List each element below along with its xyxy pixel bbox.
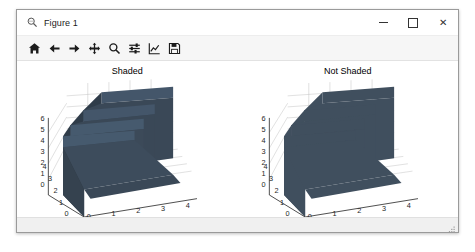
svg-text:0: 0 [41, 180, 45, 189]
svg-text:6: 6 [261, 114, 265, 123]
window-titlebar[interactable]: Figure 1 ✕ [17, 10, 458, 36]
save-floppy-icon [168, 42, 181, 55]
edit-curves-icon [148, 42, 161, 55]
home-icon [28, 42, 41, 55]
maximize-icon [408, 18, 418, 28]
svg-text:1: 1 [332, 209, 336, 217]
svg-text:4: 4 [263, 162, 267, 171]
z-tick-labels-not-shaded: 6 5 4 3 2 1 0 [261, 114, 265, 189]
svg-text:2: 2 [274, 186, 278, 195]
navigation-toolbar [17, 36, 458, 61]
figure-magnifier-icon [20, 17, 44, 28]
maximize-button[interactable] [398, 10, 428, 35]
svg-text:1: 1 [279, 198, 283, 207]
svg-text:3: 3 [41, 147, 45, 156]
x-tick-labels-shaded: 0 1 2 3 4 [87, 201, 190, 217]
configure-subplots-icon [128, 42, 141, 55]
window-controls: ✕ [368, 10, 458, 35]
save-button[interactable] [165, 39, 184, 58]
svg-text:1: 1 [59, 198, 63, 207]
zoom-magnifier-icon [108, 42, 121, 55]
svg-text:0: 0 [261, 180, 265, 189]
svg-text:3: 3 [381, 204, 385, 213]
svg-text:4: 4 [41, 136, 45, 145]
svg-text:2: 2 [357, 206, 361, 215]
minimize-icon [379, 22, 388, 23]
minimize-button[interactable] [368, 10, 398, 35]
figure-window: Figure 1 ✕ [16, 9, 459, 233]
svg-text:0: 0 [285, 209, 289, 217]
svg-text:5: 5 [41, 125, 45, 134]
forward-arrow-icon [68, 42, 81, 55]
desktop-background: Figure 1 ✕ [0, 0, 475, 252]
home-button[interactable] [25, 39, 44, 58]
svg-text:3: 3 [261, 147, 265, 156]
svg-text:1: 1 [111, 209, 115, 217]
svg-text:3: 3 [161, 204, 165, 213]
forward-button[interactable] [65, 39, 84, 58]
edit-curves-button[interactable] [145, 39, 164, 58]
close-button[interactable]: ✕ [428, 10, 458, 35]
svg-text:2: 2 [136, 206, 140, 215]
z-tick-labels-shaded: 6 5 4 3 2 1 0 [41, 114, 45, 189]
svg-text:4: 4 [42, 162, 46, 171]
window-title: Figure 1 [44, 18, 78, 28]
x-tick-labels-not-shaded: 0 1 2 3 4 [307, 201, 410, 217]
svg-text:4: 4 [261, 136, 265, 145]
figure-canvas[interactable]: Shaded [17, 61, 458, 217]
svg-text:3: 3 [268, 174, 272, 183]
zoom-button[interactable] [105, 39, 124, 58]
svg-text:5: 5 [261, 125, 265, 134]
svg-text:6: 6 [41, 114, 45, 123]
axes3d-not-shaded: 6 5 4 3 2 1 0 4 3 2 1 0 [238, 61, 459, 217]
svg-text:0: 0 [64, 209, 68, 217]
svg-text:4: 4 [186, 201, 190, 210]
svg-text:3: 3 [48, 174, 52, 183]
pan-move-icon [88, 42, 101, 55]
resize-grip-icon[interactable] [446, 221, 456, 231]
back-arrow-icon [48, 42, 61, 55]
subplot-not-shaded[interactable]: Not Shaded [238, 61, 459, 217]
back-button[interactable] [45, 39, 64, 58]
subplot-shaded[interactable]: Shaded [17, 61, 238, 217]
axes3d-shaded: 6 5 4 3 2 1 0 4 3 2 1 0 [17, 61, 238, 217]
svg-text:4: 4 [406, 201, 410, 210]
configure-subplots-button[interactable] [125, 39, 144, 58]
status-bar [17, 217, 458, 232]
close-icon: ✕ [439, 18, 447, 28]
svg-text:2: 2 [53, 186, 57, 195]
pan-button[interactable] [85, 39, 104, 58]
